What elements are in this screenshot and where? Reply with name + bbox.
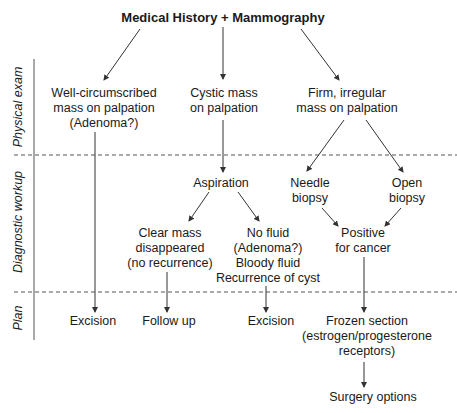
arrow-needle-to-positive	[322, 208, 338, 226]
node-frozen-section: Frozen section (estrogen/progesterone re…	[302, 314, 432, 359]
node-needle-biopsy: Needle biopsy	[290, 176, 330, 206]
diagram-title: Medical History + Mammography	[121, 10, 324, 25]
node-positive-cancer: Positive for cancer	[335, 226, 391, 256]
arrow-title-to-firm	[301, 29, 339, 80]
node-cystic-mass: Cystic mass on palpation	[190, 86, 258, 116]
node-excision-1: Excision	[70, 314, 117, 329]
node-open-biopsy: Open biopsy	[389, 176, 425, 206]
node-firm-irregular: Firm, irregular mass on palpation	[296, 86, 397, 116]
node-aspiration: Aspiration	[193, 176, 249, 191]
arrow-open-to-positive	[385, 208, 401, 226]
node-excision-2: Excision	[248, 314, 295, 329]
node-surgery-options: Surgery options	[329, 390, 417, 405]
arrow-aspiration-to-clear	[189, 192, 209, 221]
arrow-firm-to-open	[366, 120, 403, 172]
lane-label-physical-exam: Physical exam	[11, 67, 25, 148]
node-clear-mass: Clear mass disappeared (no recurrence)	[127, 226, 212, 271]
node-follow-up: Follow up	[142, 314, 196, 329]
lane-label-diagnostic-workup: Diagnostic workup	[11, 171, 25, 273]
lane-label-plan: Plan	[11, 305, 25, 330]
flowchart: Physical exam Diagnostic workup Plan Med…	[0, 0, 457, 413]
arrow-aspiration-to-nofluid	[238, 192, 259, 221]
arrow-firm-to-needle	[307, 120, 344, 171]
node-well-circumscribed: Well-circumscribed mass on palpation (Ad…	[51, 86, 156, 131]
arrow-title-to-well	[104, 29, 140, 80]
node-no-fluid: No fluid (Adenoma?) Bloody fluid Recurre…	[216, 226, 320, 286]
